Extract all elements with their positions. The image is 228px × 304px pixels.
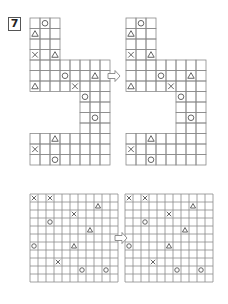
circle-mark [82,94,88,100]
grid-cell [40,29,50,40]
grid-cell [30,155,40,166]
grid-cell [126,60,136,71]
grid-cell [100,81,110,92]
grid-cell [176,102,186,113]
grid-cell [186,123,196,134]
top-puzzle-grid [30,18,110,165]
cross-mark [56,260,60,264]
grid-cell [156,60,166,71]
puzzle-board [0,0,228,304]
circle-mark [127,244,131,248]
grid-cell [50,60,60,71]
grid-cell [166,71,176,82]
cross-mark [151,260,155,264]
grid-cell [196,155,206,166]
grid-cell [166,134,176,145]
grid-cell [90,81,100,92]
grid-cell [186,60,196,71]
grid-cell [100,155,110,166]
circle-mark [80,268,84,272]
grid-cell [146,18,156,29]
grid-cell [40,71,50,82]
grid-cell [136,50,146,61]
circle-mark [143,220,147,224]
grid-cell [176,71,186,82]
triangle-mark [148,52,154,58]
circle-mark [92,115,98,121]
cross-mark [32,196,36,200]
grid-cell [40,81,50,92]
grid-cell [50,71,60,82]
grid-cell [40,50,50,61]
grid-cell [186,102,196,113]
triangle-mark [95,204,100,208]
grid-cell [80,134,90,145]
grid-cell [90,92,100,103]
circle-mark [42,20,48,26]
grid-cell [100,92,110,103]
grid-cell [40,18,50,29]
triangle-mark [71,244,76,248]
grid-cell [176,144,186,155]
grid-cell [126,71,136,82]
grid-cell [176,134,186,145]
cross-mark [127,196,131,200]
circle-mark [188,115,194,121]
circle-mark [104,268,108,272]
cross-mark [72,83,78,89]
grid-cell [186,155,196,166]
grid-cell [136,39,146,50]
triangle-mark [128,83,134,89]
cross-mark [48,196,52,200]
bottom-solution-grid [125,194,213,282]
grid-cell [40,155,50,166]
circle-mark [175,268,179,272]
grid-cell [166,155,176,166]
grid-cell [30,60,40,71]
grid-cell [176,60,186,71]
grid-cell [136,81,146,92]
grid-cell [126,39,136,50]
grid-cell [176,113,186,124]
grid-cell [80,144,90,155]
circle-mark [32,244,36,248]
grid-cell [50,155,60,166]
grid-cell [136,29,146,40]
grid-cell [136,18,146,29]
grid-cell [196,113,206,124]
triangle-mark [190,204,195,208]
grid-cell [146,144,156,155]
grid-cell [40,144,50,155]
grid-cell [50,18,60,29]
grid-cell [146,60,156,71]
grid-cell [80,60,90,71]
grid-cell [100,102,110,113]
grid-cell [80,81,90,92]
grid-cell [156,155,166,166]
grid-cell [196,60,206,71]
circle-mark [52,157,58,163]
grid-cell [70,71,80,82]
grid-cell [176,123,186,134]
grid-cell [166,60,176,71]
cross-mark [143,196,147,200]
grid-cell [90,134,100,145]
grid-cell [146,155,156,166]
cross-mark [32,146,38,152]
grid-cell [156,81,166,92]
cross-mark [128,146,134,152]
circle-mark [138,20,144,26]
triangle-mark [52,52,58,58]
triangle-mark [32,31,38,37]
cross-mark [167,212,171,216]
grid-cell [50,144,60,155]
circle-mark [178,94,184,100]
grid-cell [80,155,90,166]
grid-cell [90,113,100,124]
grid-cell [40,60,50,71]
grid-cell [30,71,40,82]
grid-cell [40,39,50,50]
grid-cell [100,134,110,145]
grid-cell [146,39,156,50]
grid-cell [60,81,70,92]
